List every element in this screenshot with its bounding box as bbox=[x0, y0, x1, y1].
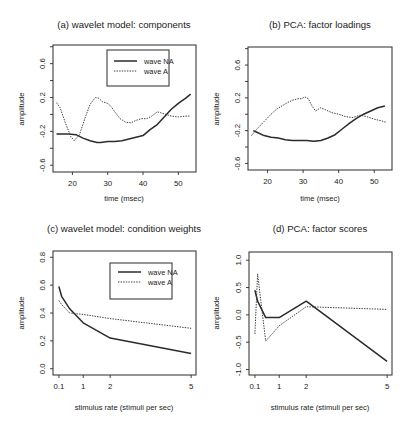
y-tick-label: 0.8 bbox=[38, 252, 47, 263]
y-tick-label: 0.0 bbox=[38, 363, 47, 375]
panel-c-xlabel: stimulus rate (stimuli per sec) bbox=[75, 403, 174, 412]
panel-a: (a) wavelet model: components time (msec… bbox=[17, 19, 196, 203]
series-solid-line bbox=[255, 290, 387, 361]
y-tick-label: -0.6 bbox=[233, 157, 242, 170]
series-solid-line bbox=[253, 106, 385, 141]
y-tick-label: -0.5 bbox=[234, 335, 243, 349]
x-tick-label: 50 bbox=[174, 179, 183, 188]
panel-b-series bbox=[252, 97, 387, 141]
panel-d-xlabel: stimulus rate (stimuli per sec) bbox=[271, 403, 370, 412]
legend-label-wave-na: wave NA bbox=[147, 268, 178, 277]
x-tick-label: 30 bbox=[103, 179, 112, 188]
panel-d-frame bbox=[249, 252, 392, 375]
series-dotted-line bbox=[59, 301, 191, 329]
series-dotted-line bbox=[252, 97, 387, 136]
x-tick-label: 1 bbox=[81, 382, 85, 391]
legend-label-wave-na: wave NA bbox=[143, 57, 174, 66]
y-tick-label: 0.2 bbox=[233, 92, 242, 103]
x-tick-label: 0.1 bbox=[250, 382, 261, 391]
x-tick-label: 40 bbox=[139, 179, 148, 188]
y-tick-label: 0.5 bbox=[234, 281, 243, 293]
panel-b: (b) PCA: factor loadings time (msec) amp… bbox=[212, 19, 392, 203]
y-tick-label: 0.4 bbox=[38, 307, 47, 319]
series-solid-line bbox=[57, 94, 191, 142]
y-tick-label: 0.6 bbox=[38, 280, 47, 291]
panel-c-legend: wave NA wave A bbox=[110, 263, 178, 299]
y-tick-label: 0.2 bbox=[38, 92, 47, 103]
panel-d-ylabel: amplitude bbox=[212, 297, 221, 330]
legend-label-wave-a: wave A bbox=[143, 67, 168, 76]
x-tick-label: 30 bbox=[299, 177, 308, 186]
figure-canvas: (a) wavelet model: components time (msec… bbox=[0, 0, 409, 430]
panel-c-ylabel: amplitude bbox=[17, 297, 26, 330]
series-dotted-line bbox=[255, 274, 387, 341]
panel-a-xlabel: time (msec) bbox=[104, 194, 144, 203]
panel-c-title: (c) wavelet model: condition weights bbox=[47, 223, 201, 234]
figure: (a) wavelet model: components time (msec… bbox=[0, 0, 409, 430]
x-tick-label: 0.1 bbox=[54, 382, 65, 391]
y-tick-label: -0.6 bbox=[38, 159, 47, 172]
x-tick-label: 5 bbox=[385, 382, 390, 391]
panel-b-frame bbox=[248, 47, 392, 170]
y-tick-label: -0.2 bbox=[38, 125, 47, 138]
panel-a-title: (a) wavelet model: components bbox=[57, 19, 191, 30]
panel-d-series bbox=[255, 274, 387, 361]
x-tick-label: 5 bbox=[189, 382, 194, 391]
panel-a-ylabel: amplitude bbox=[17, 93, 26, 126]
y-tick-label: -0.2 bbox=[233, 124, 242, 137]
panel-a-series bbox=[57, 94, 191, 142]
x-tick-label: 40 bbox=[334, 177, 343, 186]
x-tick-label: 2 bbox=[304, 382, 308, 391]
x-tick-label: 1 bbox=[277, 382, 281, 391]
panel-b-xlabel: time (msec) bbox=[300, 194, 340, 203]
panel-d: (d) PCA: factor scores stimulus rate (st… bbox=[212, 223, 392, 412]
x-tick-label: 50 bbox=[370, 177, 379, 186]
legend-label-wave-a: wave A bbox=[147, 278, 172, 287]
panel-b-ylabel: amplitude bbox=[212, 93, 221, 126]
x-tick-label: 20 bbox=[263, 177, 272, 186]
panel-b-title: (b) PCA: factor loadings bbox=[269, 19, 371, 30]
y-tick-label: -1.0 bbox=[234, 362, 243, 376]
y-tick-label: 0.6 bbox=[38, 58, 47, 69]
panel-a-legend: wave NA wave A bbox=[107, 50, 174, 86]
y-tick-label: 0.2 bbox=[38, 335, 47, 346]
panel-d-title: (d) PCA: factor scores bbox=[273, 223, 368, 234]
x-tick-label: 20 bbox=[68, 179, 77, 188]
panel-c: (c) wavelet model: condition weights sti… bbox=[17, 223, 201, 412]
y-tick-label: 1.0 bbox=[234, 254, 243, 266]
y-tick-label: 0.0 bbox=[234, 309, 243, 321]
y-tick-label: 0.6 bbox=[233, 60, 242, 71]
x-tick-label: 2 bbox=[108, 382, 112, 391]
